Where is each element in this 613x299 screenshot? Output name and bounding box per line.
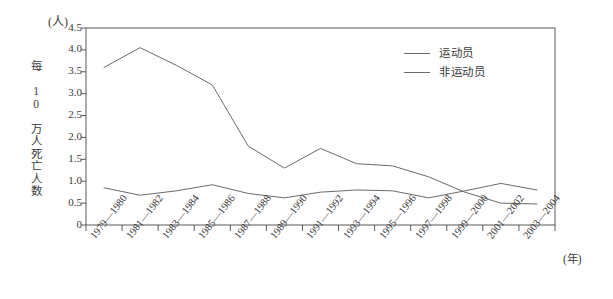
x-axis-tick-label: 1993—1994 xyxy=(341,193,382,241)
legend-item-athletes: 运动员 xyxy=(404,44,485,63)
legend-line-swatch-athletes xyxy=(404,53,430,54)
x-axis-tick-label: 1997—1998 xyxy=(413,193,454,241)
legend-label-athletes: 运动员 xyxy=(439,44,474,63)
chart-legend: 运动员 非运动员 xyxy=(404,44,485,82)
legend-label-non-athletes: 非运动员 xyxy=(439,63,485,82)
legend-item-non-athletes: 非运动员 xyxy=(404,63,485,82)
x-axis-unit-label: (年) xyxy=(563,250,582,266)
legend-line-swatch-non-athletes xyxy=(404,72,430,73)
x-axis-tick-label: 2003—2004 xyxy=(521,193,562,241)
x-axis-tick-labels: 1979—19801981—19821983—19841985—19861987… xyxy=(0,0,613,299)
x-axis-tick-label: 1991—1992 xyxy=(304,193,345,241)
chart-figure: (人) 每 10 万人死亡人数 00.51.01.52.02.53.03.54.… xyxy=(0,0,613,299)
x-axis-tick-label: 1995—1996 xyxy=(377,193,418,241)
